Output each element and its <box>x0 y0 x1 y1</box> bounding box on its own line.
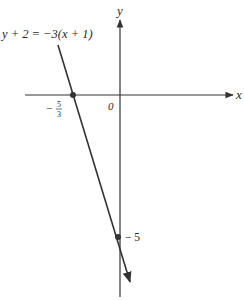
y-axis-label: y <box>115 3 123 18</box>
x-intercept-point <box>70 92 76 98</box>
origin-label: 0 <box>108 100 114 112</box>
y-intercept-label: − 5 <box>125 231 140 243</box>
x-intercept-denominator: 3 <box>57 110 61 119</box>
x-intercept-sign: − <box>46 102 52 114</box>
x-intercept-label: − 5 3 <box>46 100 62 119</box>
graph-line <box>58 45 130 282</box>
graph-figure: y x 0 y + 2 = −3(x + 1) − 5 3 − 5 <box>0 0 244 300</box>
y-intercept-point <box>115 234 121 240</box>
equation-label: y + 2 = −3(x + 1) <box>0 27 93 41</box>
x-intercept-numerator: 5 <box>57 100 61 109</box>
x-axis-label: x <box>235 87 242 102</box>
